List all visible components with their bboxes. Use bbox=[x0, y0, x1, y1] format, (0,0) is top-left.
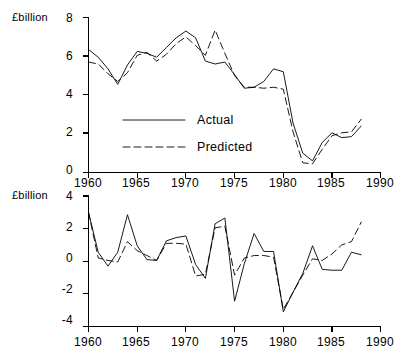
series-line-predicted-changes bbox=[89, 212, 362, 309]
